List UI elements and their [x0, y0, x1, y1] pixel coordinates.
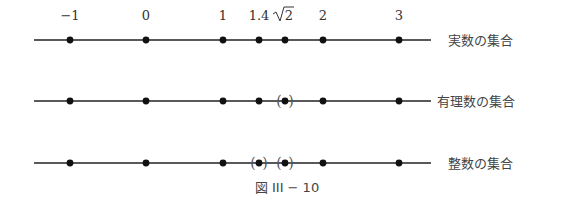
number-line-row: 実数の集合	[34, 33, 513, 48]
tick-label-sqrt2: 2	[273, 7, 294, 23]
point	[320, 37, 327, 44]
paren-left: (	[276, 93, 281, 109]
set-label: 整数の集合	[448, 156, 513, 171]
point	[67, 160, 74, 167]
point	[256, 37, 263, 44]
point	[143, 98, 150, 105]
paren-right: )	[288, 93, 293, 109]
tick-label: 1.4	[249, 8, 270, 23]
point	[67, 98, 74, 105]
figure-caption: 図 III − 10	[255, 180, 319, 195]
point	[396, 37, 403, 44]
point	[220, 37, 227, 44]
paren-right: )	[288, 155, 293, 171]
point	[282, 37, 289, 44]
set-label: 有理数の集合	[437, 94, 515, 109]
point	[320, 98, 327, 105]
tick-label: 3	[395, 8, 403, 23]
point	[220, 98, 227, 105]
tick-labels: −1011.4223	[60, 7, 403, 23]
number-line-row: ()有理数の集合	[34, 93, 515, 109]
point	[256, 98, 263, 105]
set-label: 実数の集合	[448, 33, 513, 48]
point	[67, 37, 74, 44]
number-line-figure: −1011.4223 実数の集合()有理数の集合()()整数の集合 図 III …	[0, 0, 572, 212]
point	[320, 160, 327, 167]
tick-label: 2	[319, 8, 327, 23]
tick-label: 1	[219, 8, 227, 23]
tick-label: −1	[60, 8, 79, 23]
paren-left: (	[250, 155, 255, 171]
point	[143, 37, 150, 44]
number-lines: 実数の集合()有理数の集合()()整数の集合	[34, 33, 515, 171]
paren-right: )	[262, 155, 267, 171]
tick-label: 0	[142, 8, 150, 23]
point	[143, 160, 150, 167]
point	[396, 98, 403, 105]
number-line-row: ()()整数の集合	[34, 155, 513, 171]
paren-left: (	[276, 155, 281, 171]
tick-label-text: 2	[285, 8, 293, 23]
point	[396, 160, 403, 167]
point	[220, 160, 227, 167]
